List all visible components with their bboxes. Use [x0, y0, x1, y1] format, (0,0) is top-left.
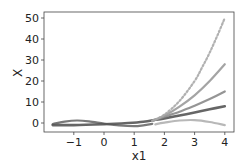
x-tick-label: 1 — [131, 136, 138, 149]
x-tick-label: −1 — [66, 136, 82, 149]
y-tick-label: 10 — [25, 96, 39, 109]
y-tick-label: 0 — [32, 117, 39, 130]
y-axis-label: X — [11, 69, 25, 77]
y-tick-label: 30 — [25, 54, 39, 67]
plot-frame — [44, 12, 234, 132]
x-tick-label: 3 — [191, 136, 198, 149]
y-tick-label: 50 — [25, 12, 39, 25]
x-tick-label: 2 — [161, 136, 168, 149]
y-tick-label: 40 — [25, 33, 39, 46]
chart: −101234 01020304050 x1 X — [0, 0, 248, 166]
x-tick-label: 4 — [221, 136, 228, 149]
y-tick-label: 20 — [25, 75, 39, 88]
x-tick-label: 0 — [101, 136, 108, 149]
x-axis-label: x1 — [132, 149, 147, 163]
x-axis-ticks: −101234 — [66, 132, 229, 149]
y-axis-ticks: 01020304050 — [25, 12, 44, 130]
